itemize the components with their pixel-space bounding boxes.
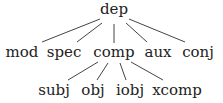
node-conj: conj (182, 43, 214, 61)
node-obj: obj (81, 81, 104, 99)
edge-dep-mod (42, 19, 100, 42)
node-xcomp: xcomp (152, 81, 202, 99)
node-iobj: iobj (116, 81, 144, 99)
dependency-tree: dep mod spec comp aux conj subj obj iobj… (0, 0, 223, 103)
node-dep: dep (100, 0, 128, 18)
edge-dep-spec (77, 23, 102, 42)
node-subj: subj (38, 81, 70, 99)
node-mod: mod (6, 43, 39, 61)
edge-dep-conj (129, 19, 185, 42)
edge-dep-aux (126, 23, 147, 42)
edge-comp-subj (68, 62, 98, 80)
edge-comp-iobj (120, 63, 126, 80)
edge-comp-obj (97, 63, 108, 80)
node-comp: comp (93, 43, 134, 61)
node-aux: aux (144, 43, 171, 61)
edge-comp-xcomp (131, 62, 163, 80)
node-spec: spec (47, 43, 82, 61)
